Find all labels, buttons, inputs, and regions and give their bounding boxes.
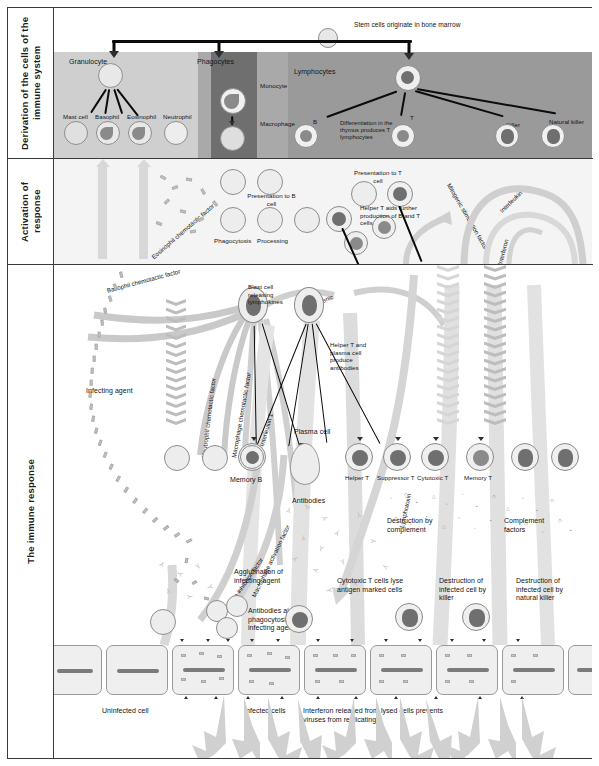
cell-macrophage: [220, 126, 245, 151]
antigen-marker-icon: [418, 639, 422, 642]
thymus-note: Differentiation in the thymus produces T…: [340, 120, 400, 141]
antigen-marker-icon: [180, 639, 184, 642]
antigen-marker-icon: [384, 639, 388, 642]
section-title-activation: Activation of response: [8, 159, 54, 264]
lymphokine-ribbons-activation: [54, 159, 592, 264]
b-cell-nucleus: [300, 130, 312, 142]
section-label-response: The immune response: [25, 459, 37, 564]
label-mast-cell: Mast cell: [63, 113, 88, 121]
cell-natural-killer: [541, 124, 565, 148]
diagram-frame: Derivation of the cells of the immune sy…: [7, 7, 592, 759]
band-label-lymphocytes: Lymphocytes: [294, 68, 336, 77]
panel-response: Basophil chemotactic factor Neutrophil c…: [54, 265, 592, 758]
antigen-marker-icon: [226, 639, 230, 642]
arrowhead-macrophage: [229, 121, 235, 125]
label-monocyte: Monocyte: [260, 82, 287, 90]
antigen-marker-icon: [316, 639, 320, 642]
killer-nucleus: [501, 129, 514, 144]
label-neutrophil: Neutrophil: [163, 113, 192, 121]
section-label-activation: Activation of response: [19, 159, 43, 264]
monocyte-nucleus: [224, 94, 239, 109]
cell-mast: [64, 121, 88, 145]
panel-derivation: Granulocyte Phagocytes Lymphocytes Stem …: [54, 8, 592, 158]
arrowhead-granulocyte: [109, 51, 119, 58]
stem-cell: [318, 28, 338, 48]
cell-monocyte: [220, 88, 246, 114]
eosinophil-nucleus: [132, 127, 145, 140]
label-eosinophil: Eosinophil: [127, 113, 156, 121]
granulocyte-progenitor: [98, 63, 123, 88]
cell-eosinophil: [128, 121, 152, 145]
panel-activation: Phagocytosis Processing Presentation to …: [54, 159, 592, 264]
label-b-cell: B: [313, 118, 317, 126]
antigen-marker-icon: [276, 639, 280, 642]
lymphoid-nucleus: [401, 71, 414, 84]
stem-branch-line: [112, 40, 412, 43]
cell-neutrophil: [164, 121, 188, 145]
stem-cell-note: Stem cells originate in bone marrow: [354, 21, 474, 29]
antigen-marker-icon: [450, 639, 454, 642]
diagram-page: Derivation of the cells of the immune sy…: [0, 0, 599, 766]
cell-killer: [495, 124, 519, 148]
cell-basophil: [96, 121, 120, 145]
antigen-marker-icon: [206, 639, 210, 642]
antigen-marker-icon: [250, 639, 254, 642]
label-basophil: Basophil: [95, 113, 119, 121]
band-label-phagocytes: Phagocytes: [197, 58, 234, 67]
cell-b-lymphocyte: [294, 124, 318, 148]
label-macrophage: Macrophage: [260, 120, 295, 128]
lysis-burst-rays: [54, 685, 592, 758]
antigen-marker-icon: [350, 639, 354, 642]
arrowhead-phagocyte: [214, 51, 224, 58]
antigen-particles-activation: [154, 174, 224, 234]
arrowhead-lymphocyte: [404, 53, 414, 60]
nk-nucleus: [547, 129, 560, 144]
antigen-marker-icon: [516, 639, 520, 642]
label-t-cell: T: [410, 114, 414, 122]
section-title-response: The immune response: [8, 265, 54, 758]
basophil-nucleus: [100, 127, 113, 140]
section-title-derivation: Derivation of the cells of the immune sy…: [8, 8, 54, 158]
antigen-marker-icon: [482, 639, 486, 642]
section-label-derivation: Derivation of the cells of the immune sy…: [19, 8, 43, 158]
